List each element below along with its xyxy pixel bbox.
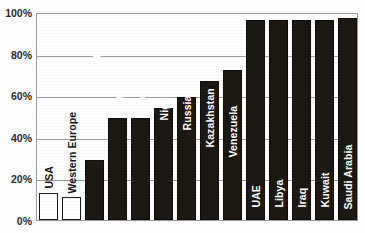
bar-label-kazakhstan: Kazakhstan [205, 88, 216, 147]
bar-label-nigeria: Nigeria [159, 84, 170, 120]
bar-label-saudi-arabia: Saudi Arabia [343, 145, 354, 210]
bar-label-kuwait: Kuwait [320, 173, 331, 208]
y-axis-tick-label: 60% [11, 91, 32, 101]
bar-label-iraq: Iraq [297, 188, 308, 208]
bar-algeria [108, 118, 126, 220]
chart-title [36, 0, 358, 3]
bar-label-russia: Russia [182, 96, 193, 131]
bar-label-algeria: Algeria [113, 74, 124, 110]
bar-chart: 0%20%40%60%80%100% USAWestern EuropeEgyp… [0, 0, 365, 233]
bar-nigeria [154, 108, 172, 220]
bar-iran [131, 118, 149, 220]
y-axis-tick-label: 100% [5, 8, 32, 18]
bar-western-europe [62, 197, 80, 220]
bar-label-libya: Libya [274, 180, 285, 208]
y-axis-tick-label: 40% [11, 133, 32, 143]
bar-label-iran: Iran [136, 90, 147, 110]
bar-label-western-europe: Western Europe [67, 111, 78, 193]
bar-label-venezuela: Venezuela [228, 106, 239, 158]
y-axis-tick-label: 20% [11, 174, 32, 184]
plot-area: USAWestern EuropeEgyptAlgeriaIranNigeria… [36, 13, 358, 221]
bar-series: USAWestern EuropeEgyptAlgeriaIranNigeria… [37, 14, 357, 220]
bar-label-uae: UAE [251, 185, 262, 207]
bar-egypt [85, 160, 103, 220]
bar-label-usa: USA [44, 166, 55, 188]
bar-label-egypt: Egypt [90, 39, 101, 69]
y-axis-tick-label: 80% [11, 50, 32, 60]
y-axis: 0%20%40%60%80%100% [0, 0, 34, 233]
bar-usa [39, 193, 57, 220]
y-axis-tick-label: 0% [17, 216, 32, 226]
